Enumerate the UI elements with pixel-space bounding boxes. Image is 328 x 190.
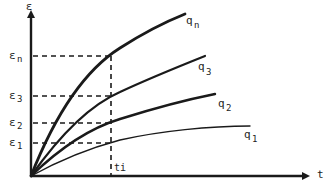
label-qn: q n <box>186 14 199 30</box>
curve-q3 <box>31 56 205 176</box>
x-axis-label: t <box>317 168 324 181</box>
svg-text:1: 1 <box>17 141 22 151</box>
y-tick-en: ε n <box>9 49 22 64</box>
svg-text:2: 2 <box>17 121 22 131</box>
svg-text:ε: ε <box>9 49 16 62</box>
svg-text:q: q <box>218 97 225 110</box>
svg-text:ε: ε <box>9 136 16 149</box>
y-tick-e3: ε 3 <box>9 89 22 104</box>
svg-text:3: 3 <box>17 94 22 104</box>
svg-text:ε: ε <box>9 89 16 102</box>
x-tick-ti: ti <box>114 162 126 173</box>
svg-text:2: 2 <box>226 103 231 113</box>
curves <box>31 14 250 176</box>
label-q1: q 1 <box>244 128 257 144</box>
y-axis-label: ε <box>26 0 33 13</box>
svg-text:n: n <box>194 20 199 30</box>
y-tick-e1: ε 1 <box>9 136 22 151</box>
curve-qn <box>31 14 185 176</box>
label-q3: q 3 <box>198 60 211 77</box>
strain-time-diagram: ε t ε n ε 3 ε 2 ε 1 ti q n q 3 q 2 q 1 <box>0 0 328 190</box>
label-q2: q 2 <box>218 97 231 113</box>
svg-text:ε: ε <box>9 116 16 129</box>
svg-text:q: q <box>198 60 205 73</box>
svg-text:q: q <box>244 128 251 141</box>
svg-text:1: 1 <box>252 134 257 144</box>
svg-text:n: n <box>17 54 22 64</box>
y-tick-e2: ε 2 <box>9 116 22 131</box>
svg-text:3: 3 <box>206 67 211 77</box>
svg-text:q: q <box>186 14 193 27</box>
